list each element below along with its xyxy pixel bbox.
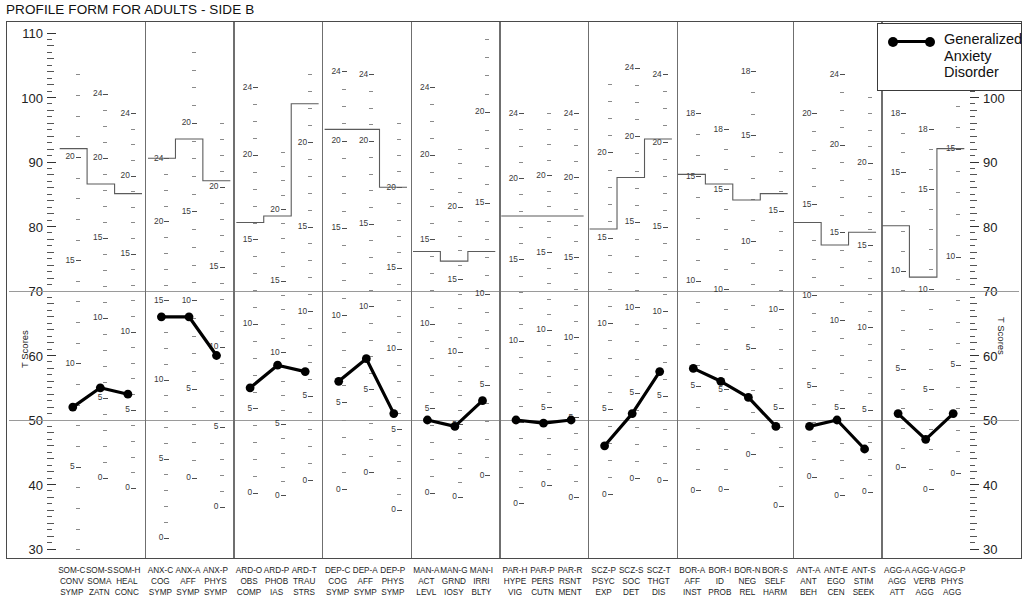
raw-score-tick: [901, 349, 905, 350]
raw-score-tick: [430, 358, 434, 359]
raw-score-label: 15: [140, 295, 163, 305]
raw-score-label: 5: [788, 380, 811, 390]
raw-score-tick: [519, 259, 524, 260]
raw-score-tick: [635, 256, 639, 257]
raw-score-tick: [663, 277, 667, 278]
raw-score-tick: [103, 318, 108, 319]
y-axis-tick-left: [47, 523, 54, 524]
raw-score-tick: [901, 369, 906, 370]
raw-score-tick: [608, 323, 613, 324]
raw-score-tick: [663, 294, 667, 295]
raw-score-tick: [430, 324, 435, 325]
raw-score-tick: [635, 290, 639, 291]
raw-score-tick: [253, 189, 257, 190]
y-axis-tick-right: [970, 284, 975, 285]
raw-score-tick: [812, 131, 816, 132]
raw-score-label: 18: [700, 124, 723, 134]
raw-score-tick: [458, 323, 462, 324]
raw-score-tick: [696, 239, 700, 240]
subscale-code: ANT-S: [845, 565, 883, 576]
raw-score-tick: [751, 220, 755, 221]
y-axis-tick-left: [47, 245, 52, 246]
raw-score-label: 0: [755, 500, 778, 510]
raw-score-tick: [192, 353, 196, 354]
y-axis-tick-left: [47, 503, 52, 504]
raw-score-tick: [812, 459, 816, 460]
y-axis-tick-left: [47, 110, 54, 111]
data-point-ANT-S: [860, 445, 869, 454]
raw-score-tick: [868, 360, 872, 361]
raw-score-tick: [131, 488, 136, 489]
raw-score-tick: [253, 290, 257, 291]
raw-score-tick: [696, 428, 700, 429]
raw-score-tick: [281, 152, 285, 153]
subscale-name-line1: STIM: [845, 576, 883, 587]
raw-score-tick: [724, 169, 728, 170]
profile-chart-frame: 1101101001009090808070706060505040403030…: [6, 21, 1022, 559]
raw-score-tick: [956, 171, 960, 172]
raw-score-label: 0: [639, 475, 662, 485]
raw-score-label: 0: [932, 468, 955, 478]
raw-score-tick: [901, 330, 905, 331]
raw-score-tick: [281, 324, 285, 325]
y-axis-tick-left: [47, 413, 52, 414]
raw-score-label: 0: [434, 491, 457, 501]
raw-score-tick: [220, 491, 224, 492]
raw-score-tick: [131, 285, 135, 286]
raw-score-tick: [220, 171, 224, 172]
raw-score-tick: [397, 494, 401, 495]
raw-score-tick: [308, 311, 313, 312]
y-axis-tick-right: [970, 497, 977, 498]
raw-score-tick: [131, 207, 135, 208]
raw-score-tick: [485, 294, 490, 295]
raw-score-tick: [485, 94, 489, 95]
raw-score-tick: [220, 251, 224, 252]
y-axis-tick-left: [47, 484, 56, 485]
raw-score-tick: [253, 324, 258, 325]
raw-score-tick: [547, 345, 551, 346]
raw-score-tick: [131, 176, 136, 177]
raw-score-tick: [519, 389, 523, 390]
raw-score-tick: [192, 52, 196, 53]
y-axis-tick-right: [970, 387, 975, 388]
skyline-MAN: [413, 251, 495, 261]
raw-score-label: 24: [816, 69, 839, 79]
raw-score-tick: [840, 460, 844, 461]
subscale-name-line1: THGT: [640, 576, 678, 587]
raw-score-tick: [281, 424, 286, 425]
raw-score-tick: [574, 433, 578, 434]
raw-score-tick: [103, 286, 107, 287]
raw-score-tick: [192, 318, 196, 319]
raw-score-tick: [131, 129, 135, 130]
raw-score-label: 10: [816, 315, 839, 325]
raw-score-tick: [901, 113, 906, 114]
raw-score-tick: [430, 459, 434, 460]
raw-score-tick: [663, 142, 668, 143]
y-axis-label-right: 100: [983, 91, 1013, 106]
raw-score-tick: [868, 475, 872, 476]
raw-score-tick: [253, 358, 257, 359]
raw-score-tick: [868, 327, 873, 328]
raw-score-tick: [929, 229, 933, 230]
raw-score-tick: [485, 275, 489, 276]
raw-score-label: 15: [345, 218, 368, 228]
raw-score-label: 15: [52, 255, 75, 265]
raw-score-tick: [519, 454, 523, 455]
raw-score-tick: [812, 222, 816, 223]
raw-score-tick: [192, 371, 196, 372]
subscale-name-line2: DIS: [640, 587, 678, 598]
y-axis-tick-left: [47, 116, 52, 117]
raw-score-tick: [131, 300, 135, 301]
raw-score-tick: [574, 161, 578, 162]
raw-score-label: 15: [816, 227, 839, 237]
raw-score-tick: [547, 485, 552, 486]
raw-score-label: 24: [107, 108, 130, 118]
subscale-code: ANX-P: [197, 565, 235, 576]
raw-score-tick: [430, 408, 435, 409]
raw-score-label: 20: [584, 147, 607, 157]
raw-score-tick: [608, 272, 612, 273]
raw-score-tick: [956, 408, 960, 409]
raw-score-label: 15: [318, 222, 341, 232]
raw-score-tick: [281, 381, 285, 382]
raw-score-tick: [812, 277, 816, 278]
